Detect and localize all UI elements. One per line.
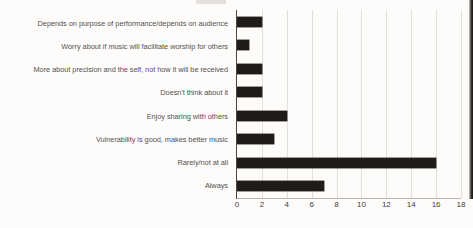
category-label: Enjoy sharing with others	[0, 105, 233, 128]
x-tick-label: 0	[235, 200, 239, 209]
x-tick-label: 8	[334, 200, 338, 209]
bar	[237, 40, 249, 50]
bar-slot	[237, 57, 461, 81]
category-label: Always	[0, 175, 233, 198]
bar-slot	[237, 81, 461, 105]
bar-slot	[237, 104, 461, 128]
bar-slot	[237, 175, 461, 199]
x-tick-label: 4	[285, 200, 289, 209]
x-axis-tick-labels: 024681012141618	[237, 200, 461, 216]
bar	[237, 111, 287, 121]
bar-slot	[237, 34, 461, 58]
x-tick-label: 16	[432, 200, 441, 209]
gridline	[461, 10, 462, 198]
x-tick-label: 10	[357, 200, 366, 209]
category-axis-labels: Depends on purpose of performance/depend…	[0, 12, 233, 198]
category-label: Depends on purpose of performance/depend…	[0, 12, 233, 35]
category-label: Doesn't think about it	[0, 82, 233, 105]
category-label: Rarely/not at all	[0, 152, 233, 175]
x-tick-label: 2	[260, 200, 264, 209]
x-tick-label: 18	[457, 200, 466, 209]
x-tick-label: 14	[407, 200, 416, 209]
bar	[237, 64, 262, 74]
bar	[237, 134, 274, 144]
category-label: More about precision and the self, not h…	[0, 59, 233, 82]
bar-slot	[237, 151, 461, 175]
bar	[237, 17, 262, 27]
scan-artifact-right-edge	[469, 0, 473, 199]
category-label: Worry about if music will facilitate wor…	[0, 35, 233, 58]
scan-artifact-top	[196, 0, 226, 4]
bar	[237, 158, 436, 168]
y-axis-line	[236, 10, 237, 199]
bar	[237, 87, 262, 97]
bar	[237, 181, 324, 191]
horizontal-bar-chart: Depends on purpose of performance/depend…	[0, 0, 473, 228]
category-label: Vulnerability is good, makes better musi…	[0, 128, 233, 151]
plot-area	[237, 10, 461, 198]
x-tick-label: 6	[309, 200, 313, 209]
bar-series	[237, 10, 461, 198]
x-tick-label: 12	[382, 200, 391, 209]
x-axis-line	[237, 198, 461, 199]
bar-slot	[237, 10, 461, 34]
bar-slot	[237, 128, 461, 152]
